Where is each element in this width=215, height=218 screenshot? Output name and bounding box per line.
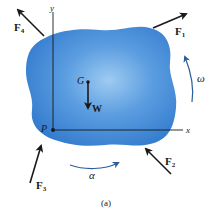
center-of-gravity-label: G: [77, 76, 84, 86]
force-label-f2: F2: [165, 156, 175, 169]
origin-label: P: [41, 124, 47, 134]
force-arrow-f3: [30, 146, 41, 183]
y-axis-label: y: [50, 4, 54, 13]
x-axis-label: x: [186, 126, 190, 135]
force-symbol: F: [36, 179, 43, 191]
force-symbol: F: [14, 21, 21, 33]
angular-acceleration-arrow: [70, 163, 118, 169]
rigid-body: [26, 27, 176, 146]
weight-label: W: [92, 104, 102, 114]
force-symbol: F: [175, 25, 182, 37]
origin-point: [51, 128, 55, 132]
force-subscript: 1: [182, 31, 186, 39]
force-label-f4: F4: [14, 22, 24, 35]
angular-velocity-arrow: [185, 57, 193, 102]
angular-velocity-label: ω: [197, 73, 205, 84]
force-symbol: F: [165, 155, 172, 167]
rigid-body-diagram: y x P G W F4 F1 F3 F2 ω α (a): [0, 0, 215, 218]
force-label-f3: F3: [36, 180, 46, 193]
angular-acceleration-label: α: [89, 170, 95, 181]
force-subscript: 3: [43, 185, 47, 193]
figure-caption: (a): [101, 199, 111, 208]
force-label-f1: F1: [175, 26, 185, 39]
force-subscript: 4: [21, 27, 25, 35]
force-subscript: 2: [172, 161, 176, 169]
